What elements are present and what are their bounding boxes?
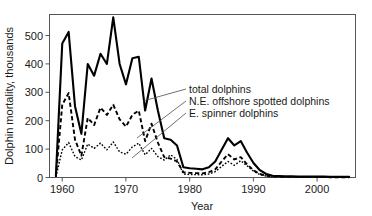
y-tick-label-100: 100: [25, 143, 43, 155]
annotation-label-ne-offshore-spotted-dolphins: N.E. offshore spotted dolphins: [189, 95, 329, 107]
y-tick-label-200: 200: [25, 115, 43, 127]
y-axis-title: Dolphin mortality, thousands: [3, 27, 15, 165]
x-tick-label-1970: 1970: [114, 183, 138, 195]
y-tick-label-500: 500: [25, 30, 43, 42]
x-tick-label-1990: 1990: [241, 183, 265, 195]
y-tick-label-0: 0: [37, 172, 43, 184]
y-tick-label-400: 400: [25, 58, 43, 70]
annotation-label-e-spinner-dolphins: E. spinner dolphins: [189, 107, 278, 119]
dolphin-mortality-chart: 0 100 200 300 400 500 1960 1970 1980 199…: [0, 0, 372, 216]
y-tick-label-300: 300: [25, 86, 43, 98]
x-tick-label-1960: 1960: [50, 183, 74, 195]
x-tick-label-2000: 2000: [305, 183, 329, 195]
x-axis-title: Year: [191, 200, 214, 212]
chart-canvas: 0 100 200 300 400 500 1960 1970 1980 199…: [0, 0, 372, 216]
x-tick-label-1980: 1980: [177, 183, 201, 195]
annotation-label-total-dolphins: total dolphins: [189, 83, 251, 95]
